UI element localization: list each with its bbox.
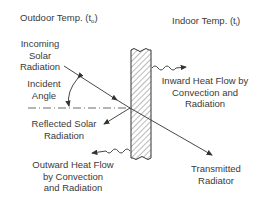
outward-heat-wave-arrow xyxy=(92,149,130,153)
reflected-solar-radiation-label: Reflected Solar Radiation xyxy=(24,118,104,141)
glass-wall xyxy=(131,49,151,160)
inward-heat-wave-arrow xyxy=(152,66,186,70)
incoming-solar-radiation-label: Incoming Solar Radiation xyxy=(16,38,64,73)
transmitted-radiator-label: Transmitted Radiator xyxy=(186,163,246,186)
incoming-ray-arrow xyxy=(64,66,117,100)
indoor-temp-label: Indoor Temp. (ti) xyxy=(172,15,240,31)
diagram-canvas: Outdoor Temp. (to) Indoor Temp. (ti) Inc… xyxy=(0,0,268,201)
inward-heat-flow-label: Inward Heat Flow by Convection and Radia… xyxy=(155,75,255,110)
outward-heat-flow-label: Outward Heat Flow by Convection and Radi… xyxy=(26,159,120,194)
outdoor-temp-label: Outdoor Temp. (to) xyxy=(20,12,98,28)
reflected-ray-arrow xyxy=(104,108,130,124)
incident-angle-arc xyxy=(68,78,78,106)
incident-angle-label: Incident Angle xyxy=(23,78,65,101)
